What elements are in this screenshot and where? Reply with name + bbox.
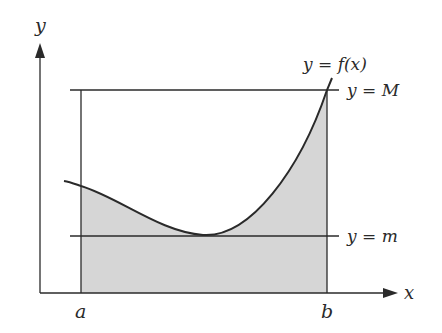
y-axis-label: y <box>34 14 46 36</box>
lower-line-label: y = m <box>346 226 398 246</box>
a-label: a <box>75 300 86 322</box>
curve-label: y = f(x) <box>302 54 367 74</box>
y-axis-arrow-icon <box>35 43 45 58</box>
x-axis-arrow-icon <box>383 288 398 298</box>
b-label: b <box>321 300 333 322</box>
integral-bounds-diagram: y x a b y = M y = m y = f(x) <box>0 0 442 333</box>
x-axis-label: x <box>404 282 414 303</box>
shaded-area <box>81 90 327 293</box>
upper-line-label: y = M <box>346 80 400 100</box>
